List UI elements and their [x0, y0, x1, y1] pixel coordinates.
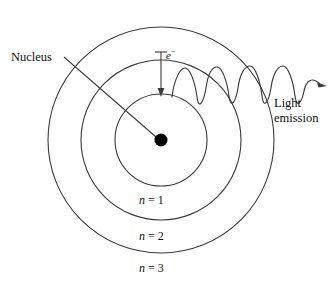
shell-label-n2: n = 2	[139, 230, 164, 244]
diagram-canvas	[0, 0, 334, 283]
shell-label-n3: n = 3	[139, 262, 164, 276]
shell-label-n1-value: = 1	[148, 193, 164, 207]
electron-charge-superscript: −	[171, 47, 176, 56]
shell-label-n2-symbol: n	[139, 229, 145, 243]
electron-label: e−	[166, 47, 175, 61]
light-emission-label-line2: emission	[274, 111, 318, 126]
shell-label-n3-symbol: n	[139, 261, 145, 275]
nucleus-dot	[155, 134, 168, 147]
light-emission-label: Lightemission	[274, 96, 318, 126]
nucleus-label: Nucleus	[11, 50, 52, 64]
shell-label-n1: n = 1	[139, 194, 164, 208]
light-emission-label-line1: Light	[274, 96, 318, 111]
bohr-model-diagram: Nucleus e− Lightemission n = 1 n = 2 n =…	[0, 0, 334, 283]
electron-transition-arrow-head	[158, 88, 165, 97]
shell-label-n1-symbol: n	[139, 193, 145, 207]
shell-label-n2-value: = 2	[148, 229, 164, 243]
nucleus-leader-line	[64, 57, 156, 137]
shell-label-n3-value: = 3	[148, 261, 164, 275]
light-emission-arrow-head	[317, 83, 327, 88]
